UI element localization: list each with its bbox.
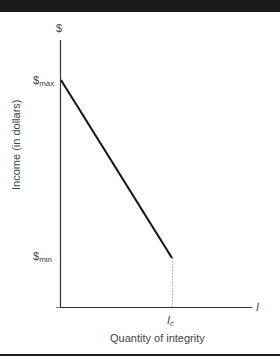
y-tick-max-sub: max [39,79,54,88]
x-axis-symbol: I [256,301,259,313]
y-axis-label: Income (in dollars) [10,100,22,190]
y-axis-symbol: $ [56,22,62,34]
y-tick-min-sub: min [39,255,52,264]
x-tick-ic: Ic [167,314,174,328]
income-line [61,80,172,258]
bottom-rule [0,354,280,356]
y-tick-min: $min [33,250,52,264]
y-tick-max: $max [33,74,54,88]
chart-plot [0,0,280,362]
x-tick-ic-sub: c [170,319,174,328]
x-axis-label: Quantity of integrity [110,332,205,344]
